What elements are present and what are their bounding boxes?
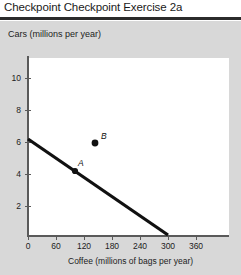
point-a-label: A	[78, 158, 84, 168]
figure-page: Checkpoint Checkpoint Exercise 2a Cars (…	[0, 0, 241, 275]
point-b-marker	[92, 140, 99, 147]
frontier-plot	[0, 21, 241, 275]
chart-figure: Cars (millions per year) 10 8 6 4 2 0 60…	[0, 21, 241, 275]
x-axis-title: Coffee (millions of bags per year)	[68, 256, 193, 266]
point-a-marker	[72, 168, 78, 174]
frontier-line	[28, 139, 168, 235]
page-title: Checkpoint Checkpoint Exercise 2a	[4, 1, 182, 13]
title-divider	[0, 17, 241, 20]
title-bar: Checkpoint Checkpoint Exercise 2a	[0, 0, 241, 17]
point-b-label: B	[101, 131, 107, 141]
